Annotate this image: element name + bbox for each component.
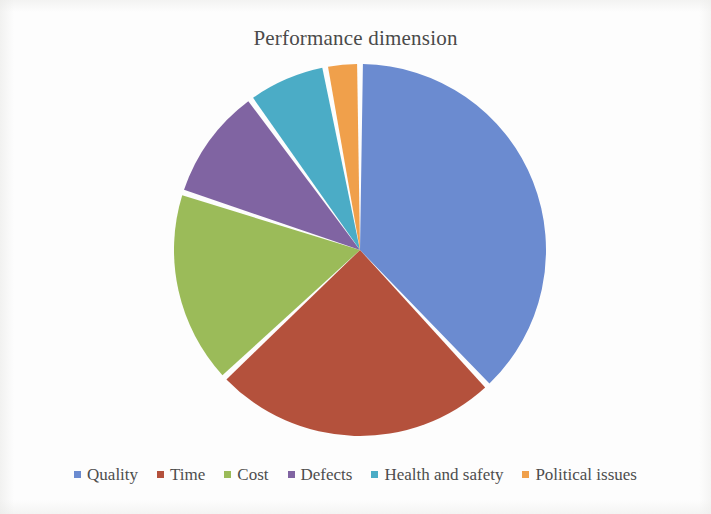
legend-item[interactable]: Quality xyxy=(74,466,138,483)
legend-item[interactable]: Time xyxy=(157,466,205,483)
legend-swatch-icon xyxy=(522,471,529,478)
legend-item-label: Cost xyxy=(237,466,268,483)
legend-item-label: Quality xyxy=(87,466,138,483)
legend-item[interactable]: Defects xyxy=(288,466,353,483)
pie-chart-graphic xyxy=(173,63,547,437)
legend-item[interactable]: Political issues xyxy=(522,466,637,483)
legend-item[interactable]: Cost xyxy=(224,466,268,483)
legend-item-label: Time xyxy=(170,466,205,483)
legend-item-label: Defects xyxy=(301,466,353,483)
pie-chart-figure: Performance dimension QualityTimeCostDef… xyxy=(0,0,711,514)
legend-item-label: Political issues xyxy=(535,466,637,483)
legend-item[interactable]: Health and safety xyxy=(371,466,503,483)
legend-swatch-icon xyxy=(157,471,164,478)
legend-swatch-icon xyxy=(371,471,378,478)
pie-slices-svg xyxy=(173,63,547,437)
legend-item-label: Health and safety xyxy=(384,466,503,483)
chart-title: Performance dimension xyxy=(0,26,711,51)
legend-swatch-icon xyxy=(74,471,81,478)
chart-legend: QualityTimeCostDefectsHealth and safetyP… xyxy=(0,466,711,483)
legend-swatch-icon xyxy=(224,471,231,478)
legend-swatch-icon xyxy=(288,471,295,478)
